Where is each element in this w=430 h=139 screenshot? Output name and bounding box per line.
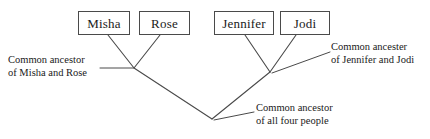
- branch-left-to-root: [134, 68, 212, 119]
- annotation-right-line2: of Jennifer and Jodi: [331, 54, 414, 67]
- branch-jennifer: [245, 35, 270, 72]
- taxon-box-rose: Rose: [139, 11, 190, 35]
- branch-misha: [108, 35, 134, 68]
- annotation-root-ancestor: Common ancestor of all four people: [256, 102, 333, 127]
- taxon-box-jodi: Jodi: [280, 11, 330, 35]
- annotation-left-ancestor: Common ancestor of Misha and Rose: [8, 54, 87, 79]
- taxon-label-jennifer: Jennifer: [222, 17, 265, 30]
- annotation-root-line1: Common ancestor: [256, 102, 333, 115]
- taxon-label-rose: Rose: [151, 17, 178, 30]
- annotation-right-line1: Common ancester: [331, 41, 414, 54]
- annotation-left-line2: of Misha and Rose: [8, 67, 87, 80]
- taxon-box-misha: Misha: [78, 11, 130, 35]
- taxon-box-jennifer: Jennifer: [214, 11, 274, 35]
- branch-jodi: [270, 35, 296, 72]
- branch-rose: [134, 35, 160, 68]
- taxon-label-misha: Misha: [87, 17, 121, 30]
- annotation-root-line2: of all four people: [256, 115, 333, 128]
- leader-line-right: [272, 52, 330, 73]
- taxon-label-jodi: Jodi: [294, 17, 316, 30]
- diagram-canvas: Misha Rose Jennifer Jodi Common ancestor…: [0, 0, 430, 139]
- annotation-left-line1: Common ancestor: [8, 54, 87, 67]
- annotation-right-ancestor: Common ancester of Jennifer and Jodi: [331, 41, 414, 66]
